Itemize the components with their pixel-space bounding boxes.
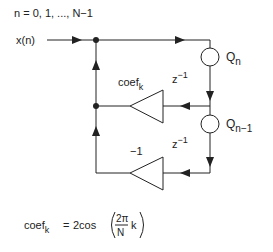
- coef-feedback-line: [163, 102, 210, 110]
- arrow-down-icon: [206, 91, 214, 101]
- formula-var: k: [131, 219, 137, 231]
- formula-numerator: 2π: [116, 213, 129, 224]
- formula-func: 2cos: [73, 219, 97, 231]
- arrow-left-icon: [180, 102, 190, 110]
- goertzel-diagram: n = 0, 1, ..., N−1 x(n) Qn z−1 coefk: [0, 0, 273, 252]
- formula-lhs: coefk: [24, 219, 50, 235]
- input-line: [47, 36, 96, 44]
- forward-path: [96, 36, 210, 48]
- arrow-up-icon: [92, 126, 100, 136]
- arrow-down-icon: [206, 157, 214, 167]
- delay-path-1: [206, 66, 214, 115]
- neg-gain-label: −1: [130, 145, 143, 157]
- qn-node: [201, 48, 219, 66]
- range-label: n = 0, 1, ..., N−1: [14, 7, 93, 19]
- neg-feedback-line: [163, 169, 210, 177]
- delay-path-2: [206, 133, 214, 173]
- formula-equals: =: [63, 219, 69, 231]
- coef-formula: coefk = 2cos 2π N k: [24, 212, 144, 238]
- arrow-up-icon: [92, 60, 100, 70]
- qn1-node: [201, 115, 219, 133]
- coef-gain-label: coefk: [118, 76, 144, 92]
- arrow-right-icon: [175, 36, 185, 44]
- input-label: x(n): [16, 34, 35, 46]
- formula-denominator: N: [117, 227, 124, 238]
- right-paren: [140, 212, 144, 238]
- coef-gain-triangle: [130, 90, 163, 123]
- qn-label: Qn: [226, 50, 241, 67]
- left-paren: [112, 212, 116, 238]
- qn1-label: Qn−1: [226, 117, 253, 134]
- delay-label-1: z−1: [172, 70, 188, 85]
- neg-gain-triangle: [130, 157, 163, 190]
- delay-label-2: z−1: [172, 135, 188, 150]
- arrow-left-icon: [180, 169, 190, 177]
